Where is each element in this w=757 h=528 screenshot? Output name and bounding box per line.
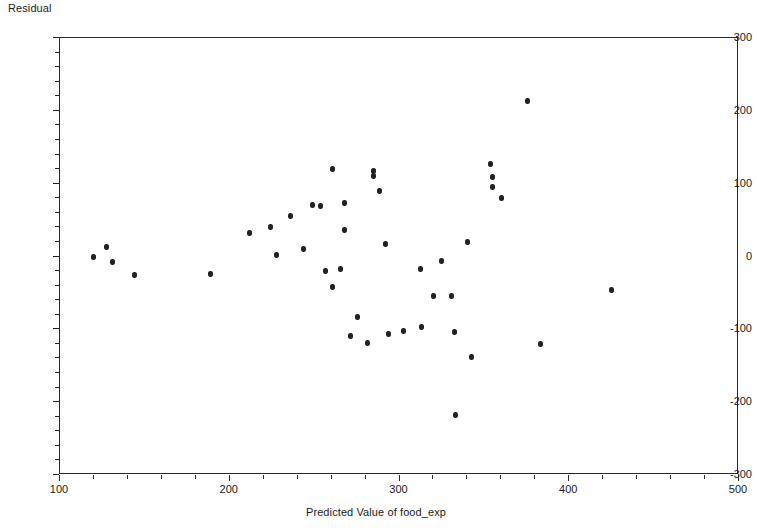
scatter-point (310, 202, 315, 208)
y-axis-tick-label: 300 (704, 31, 752, 43)
scatter-point (268, 224, 273, 230)
x-axis-major-tick (399, 475, 400, 481)
x-axis-minor-tick (331, 475, 332, 479)
y-axis-minor-tick (55, 139, 59, 140)
x-axis-major-tick (738, 475, 739, 481)
y-axis-major-tick (53, 401, 59, 402)
y-axis-minor-tick (55, 314, 59, 315)
scatter-point (288, 213, 293, 219)
y-axis-minor-tick (55, 445, 59, 446)
y-axis-minor-tick (55, 95, 59, 96)
y-axis-minor-tick (55, 299, 59, 300)
x-axis-minor-tick (195, 475, 196, 479)
y-axis-major-tick (53, 256, 59, 257)
scatter-point (318, 203, 323, 209)
y-axis-minor-tick (55, 81, 59, 82)
scatter-point (609, 287, 614, 293)
scatter-point (323, 268, 328, 274)
scatter-point (355, 314, 360, 320)
x-axis-tick-label: 300 (369, 483, 429, 495)
y-axis-tick-label: 0 (704, 250, 752, 262)
x-axis-minor-tick (432, 475, 433, 479)
x-axis-minor-tick (466, 475, 467, 479)
y-axis-minor-tick (55, 343, 59, 344)
x-axis-label: Predicted Value of food_exp (0, 506, 752, 518)
scatter-point (132, 272, 137, 278)
y-axis-minor-tick (55, 124, 59, 125)
y-axis-minor-tick (55, 285, 59, 286)
y-axis-tick-label: -100 (704, 322, 752, 334)
y-axis-tick-label: 100 (704, 177, 752, 189)
y-axis-tick-label: 200 (704, 104, 752, 116)
scatter-point (439, 258, 444, 264)
x-axis-minor-tick (263, 475, 264, 479)
scatter-point (301, 246, 306, 252)
x-axis-tick-label: 500 (708, 483, 757, 495)
y-axis-major-tick (53, 183, 59, 184)
x-axis-major-tick (229, 475, 230, 481)
scatter-point (274, 252, 279, 258)
scatter-point (469, 354, 474, 360)
scatter-point (330, 166, 335, 172)
x-axis-minor-tick (602, 475, 603, 479)
x-axis-tick-label: 400 (538, 483, 598, 495)
x-axis-minor-tick (365, 475, 366, 479)
y-axis-minor-tick (55, 372, 59, 373)
x-axis-minor-tick (670, 475, 671, 479)
y-axis-tick-label: -200 (704, 395, 752, 407)
y-axis-minor-tick (55, 357, 59, 358)
y-axis-minor-tick (55, 459, 59, 460)
y-axis-minor-tick (55, 270, 59, 271)
y-axis-major-tick (53, 328, 59, 329)
x-axis-tick-label: 200 (199, 483, 259, 495)
x-axis-minor-tick (127, 475, 128, 479)
y-axis-minor-tick (55, 430, 59, 431)
scatter-point (419, 324, 424, 330)
plot-area (59, 37, 738, 474)
x-axis-major-tick (59, 475, 60, 481)
y-axis-minor-tick (55, 154, 59, 155)
scatter-point (525, 98, 530, 104)
scatter-point (342, 227, 347, 233)
x-axis-minor-tick (500, 475, 501, 479)
y-axis-tick-label: -300 (704, 468, 752, 480)
scatter-point (383, 241, 388, 247)
x-axis-minor-tick (534, 475, 535, 479)
x-axis-major-tick (568, 475, 569, 481)
x-axis-minor-tick (704, 475, 705, 479)
scatter-point (538, 341, 543, 347)
scatter-point (330, 284, 335, 290)
y-axis-minor-tick (55, 52, 59, 53)
x-axis-minor-tick (297, 475, 298, 479)
scatter-point (452, 329, 457, 335)
y-axis-minor-tick (55, 197, 59, 198)
scatter-point (208, 271, 213, 277)
y-axis-minor-tick (55, 241, 59, 242)
scatter-point (338, 266, 343, 272)
scatter-point (104, 244, 109, 250)
y-axis-label: Residual (8, 2, 52, 14)
x-axis-tick-label: 100 (29, 483, 89, 495)
scatter-point (247, 230, 252, 236)
x-axis-minor-tick (636, 475, 637, 479)
y-axis-major-tick (53, 110, 59, 111)
y-axis-minor-tick (55, 226, 59, 227)
x-axis-minor-tick (161, 475, 162, 479)
y-axis-minor-tick (55, 212, 59, 213)
y-axis-minor-tick (55, 168, 59, 169)
x-axis-minor-tick (93, 475, 94, 479)
scatter-point (342, 200, 347, 206)
y-axis-minor-tick (55, 416, 59, 417)
y-axis-major-tick (53, 37, 59, 38)
y-axis-minor-tick (55, 66, 59, 67)
y-axis-minor-tick (55, 387, 59, 388)
